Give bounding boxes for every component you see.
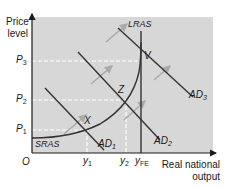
x-axis-label: Real national output — [150, 160, 220, 182]
point-v-label: V — [144, 51, 151, 61]
point-z-label: Z — [118, 85, 124, 95]
ad1-label: AD1 — [98, 139, 116, 150]
x-axis-label-line1: Real national — [150, 160, 220, 170]
ad-as-diagram: Price level Real national output O P3 P2… — [0, 0, 225, 187]
p3-label: P3 — [16, 55, 27, 66]
y-axis-label-line1: Price — [6, 17, 28, 27]
origin-label: O — [22, 157, 30, 167]
y-axis-label: Price level — [6, 17, 28, 39]
sras-label: SRAS — [35, 140, 60, 149]
ad2-label: AD2 — [154, 136, 172, 147]
y2-label: y2 — [120, 156, 129, 167]
p1-label: P1 — [16, 124, 27, 135]
lras-label: LRAS — [128, 20, 152, 29]
y-axis-label-line2: level — [6, 29, 28, 39]
x-axis-label-line2: output — [150, 172, 220, 182]
y1-label: y1 — [83, 156, 92, 167]
point-x-label: X — [84, 116, 91, 126]
ad3-label: AD3 — [189, 90, 207, 101]
p2-label: P2 — [16, 94, 27, 105]
yfe-label: yFE — [135, 156, 149, 167]
